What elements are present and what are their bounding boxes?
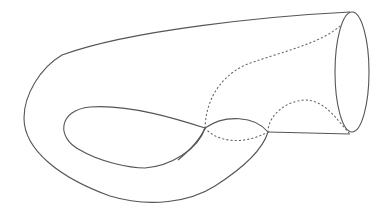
tube-bottom-edge xyxy=(268,132,350,134)
hidden-lens-bottom xyxy=(205,128,268,141)
outer-contour xyxy=(24,12,350,202)
klein-bottle-diagram xyxy=(0,0,389,208)
lens-top xyxy=(205,119,268,132)
inner-loop xyxy=(64,107,205,168)
hidden-neck-top xyxy=(205,26,340,128)
opening-ellipse xyxy=(335,12,369,132)
